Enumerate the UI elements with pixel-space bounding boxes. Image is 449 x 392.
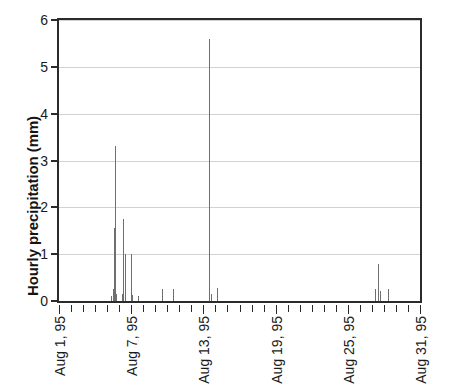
x-axis-minor-tick bbox=[396, 305, 397, 312]
x-axis-minor-tick bbox=[95, 305, 96, 312]
x-axis-tick-label: Aug 25, 95 bbox=[341, 316, 357, 392]
data-bar bbox=[375, 289, 376, 301]
data-bar bbox=[211, 294, 212, 301]
x-axis-tick-label: Aug 13, 95 bbox=[196, 316, 212, 392]
x-axis-minor-tick bbox=[288, 305, 289, 312]
x-axis-major-tick bbox=[203, 305, 204, 314]
data-series-bars bbox=[59, 20, 420, 301]
x-axis-minor-tick bbox=[300, 305, 301, 312]
x-axis-tick-label: Aug 1, 95 bbox=[52, 316, 68, 392]
data-bar bbox=[173, 289, 174, 301]
y-axis-tick-label: 3 bbox=[8, 154, 48, 168]
x-axis-minor-tick bbox=[360, 305, 361, 312]
plot-area bbox=[57, 18, 422, 303]
x-axis-minor-tick bbox=[324, 305, 325, 312]
x-axis-minor-tick bbox=[107, 305, 108, 312]
y-axis-tick-label: 6 bbox=[8, 13, 48, 27]
x-axis-minor-tick bbox=[71, 305, 72, 312]
data-bar bbox=[217, 288, 218, 301]
x-axis-minor-tick bbox=[155, 305, 156, 312]
x-axis-minor-tick bbox=[408, 305, 409, 312]
y-axis-tick-label: 5 bbox=[8, 60, 48, 74]
x-axis-minor-tick bbox=[312, 305, 313, 312]
x-axis-minor-tick bbox=[252, 305, 253, 312]
x-axis-minor-tick bbox=[227, 305, 228, 312]
y-axis-tick-label: 2 bbox=[8, 200, 48, 214]
y-axis-tick-label: 4 bbox=[8, 107, 48, 121]
x-axis-major-tick bbox=[59, 305, 60, 314]
data-bar bbox=[388, 289, 389, 301]
x-axis-tick-label: Aug 19, 95 bbox=[269, 316, 285, 392]
x-axis-minor-tick bbox=[372, 305, 373, 312]
x-axis-minor-tick bbox=[83, 305, 84, 312]
x-axis-major-tick bbox=[348, 305, 349, 314]
data-bar bbox=[162, 289, 163, 301]
precipitation-chart-figure: Hourly precipitation (mm) 0123456 Aug 1,… bbox=[0, 0, 449, 392]
x-axis-minor-tick bbox=[336, 305, 337, 312]
data-bar bbox=[125, 254, 126, 301]
x-axis-minor-tick bbox=[167, 305, 168, 312]
x-axis-tick-label: Aug 31, 95 bbox=[413, 316, 429, 392]
x-axis-major-tick bbox=[276, 305, 277, 314]
x-axis-minor-tick bbox=[191, 305, 192, 312]
x-axis-minor-tick bbox=[240, 305, 241, 312]
data-bar bbox=[132, 295, 133, 301]
x-axis-major-tick bbox=[420, 305, 421, 314]
data-bar bbox=[209, 39, 210, 301]
x-axis-minor-tick bbox=[143, 305, 144, 312]
y-axis-tick-label: 1 bbox=[8, 247, 48, 261]
data-bar bbox=[116, 294, 117, 301]
x-axis-minor-tick bbox=[179, 305, 180, 312]
x-axis-tick-label: Aug 7, 95 bbox=[124, 316, 140, 392]
x-axis-major-tick bbox=[131, 305, 132, 314]
data-bar bbox=[138, 296, 139, 301]
x-axis-minor-tick bbox=[119, 305, 120, 312]
y-axis-tick-label: 0 bbox=[8, 294, 48, 308]
x-axis-minor-tick bbox=[215, 305, 216, 312]
x-axis-minor-tick bbox=[384, 305, 385, 312]
data-bar bbox=[115, 146, 116, 301]
x-axis-minor-tick bbox=[264, 305, 265, 312]
data-bar bbox=[380, 291, 381, 301]
data-bar bbox=[131, 254, 132, 301]
